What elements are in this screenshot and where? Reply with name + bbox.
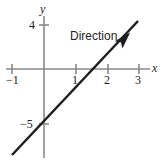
- y-axis-label: y: [40, 3, 45, 15]
- y-tick-label-4: 4: [29, 19, 35, 31]
- direction-annotation: Direction: [70, 30, 117, 42]
- y-tick-label--5: −5: [20, 118, 33, 130]
- x-axis-label: x: [152, 62, 157, 74]
- x-tick-label--1: −1: [6, 74, 19, 86]
- x-tick-label-2: 2: [104, 74, 110, 86]
- direction-arrow-icon: [115, 29, 135, 49]
- x-tick-label-3: 3: [135, 74, 141, 86]
- graph-figure: x y −1 1 2 3 4 −5 Direction: [0, 0, 164, 163]
- x-tick-label-1: 1: [72, 74, 78, 86]
